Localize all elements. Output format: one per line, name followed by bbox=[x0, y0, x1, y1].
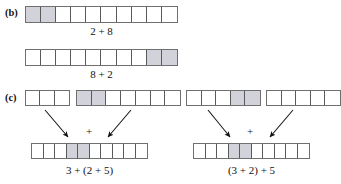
bar-cell bbox=[282, 91, 297, 105]
bar-cell bbox=[40, 91, 54, 105]
part-label-b: (b) bbox=[5, 8, 18, 19]
bar-two-plus-five bbox=[76, 90, 181, 106]
bar-cell bbox=[147, 7, 162, 22]
bar-result-right bbox=[193, 143, 310, 159]
bar-cell bbox=[325, 91, 340, 105]
bar-cell bbox=[56, 50, 71, 65]
arrow-two-plus-five-to-result bbox=[108, 110, 131, 137]
bar-cell bbox=[86, 7, 101, 22]
bar-cell bbox=[26, 7, 41, 22]
operator-plus-right: + bbox=[237, 126, 263, 137]
bar-cell bbox=[240, 144, 252, 158]
bar-cell bbox=[147, 50, 162, 65]
bar-cell bbox=[32, 144, 44, 158]
operator-plus-left: + bbox=[76, 126, 102, 137]
bar-cell bbox=[194, 144, 206, 158]
bar-cell bbox=[90, 144, 102, 158]
caption-eight-plus-two: 8 + 2 bbox=[25, 69, 178, 80]
caption-result-right: (3 + 2) + 5 bbox=[193, 165, 310, 176]
arrow-three-plus-two-to-result bbox=[208, 110, 230, 137]
bar-cell bbox=[77, 91, 92, 105]
bar-cell bbox=[132, 50, 147, 65]
bar-three bbox=[25, 90, 70, 106]
bar-cell bbox=[26, 91, 40, 105]
bar-cell bbox=[165, 91, 180, 105]
bar-cell bbox=[101, 7, 116, 22]
bar-cell bbox=[187, 91, 202, 105]
bar-cell bbox=[86, 50, 101, 65]
bar-result-left bbox=[31, 143, 148, 159]
bar-cell bbox=[151, 91, 166, 105]
bar-cell bbox=[162, 50, 177, 65]
bar-cell bbox=[245, 91, 260, 105]
bar-cell bbox=[216, 91, 231, 105]
bar-cell bbox=[44, 144, 56, 158]
bar-cell bbox=[71, 7, 86, 22]
bar-cell bbox=[202, 91, 217, 105]
bar-cell bbox=[121, 91, 136, 105]
bar-cell bbox=[263, 144, 275, 158]
bar-cell bbox=[252, 144, 264, 158]
arrow-three-to-result bbox=[45, 110, 68, 137]
bar-cell bbox=[92, 91, 107, 105]
bar-cell bbox=[206, 144, 218, 158]
bar-cell bbox=[286, 144, 298, 158]
bar-cell bbox=[113, 144, 125, 158]
bar-cell bbox=[229, 144, 241, 158]
bar-cell bbox=[78, 144, 90, 158]
bar-cell bbox=[106, 91, 121, 105]
bar-cell bbox=[275, 144, 287, 158]
bar-cell bbox=[117, 7, 132, 22]
bar-cell bbox=[136, 144, 148, 158]
bar-cell bbox=[296, 91, 311, 105]
bar-five bbox=[266, 90, 341, 106]
bar-cell bbox=[267, 91, 282, 105]
bar-cell bbox=[101, 50, 116, 65]
bar-cell bbox=[124, 144, 136, 158]
bar-cell bbox=[26, 50, 41, 65]
bar-cell bbox=[162, 7, 177, 22]
bar-cell bbox=[71, 50, 86, 65]
bar-cell bbox=[55, 91, 69, 105]
bar-cell bbox=[67, 144, 79, 158]
bar-cell bbox=[217, 144, 229, 158]
bar-two-plus-eight bbox=[25, 6, 178, 23]
bar-cell bbox=[55, 144, 67, 158]
bar-cell bbox=[56, 7, 71, 22]
bar-cell bbox=[41, 7, 56, 22]
bar-cell bbox=[101, 144, 113, 158]
bar-eight-plus-two bbox=[25, 49, 178, 66]
part-label-c: (c) bbox=[5, 93, 16, 104]
bar-cell bbox=[311, 91, 326, 105]
bar-cell bbox=[132, 7, 147, 22]
bar-cell bbox=[136, 91, 151, 105]
bar-cell bbox=[41, 50, 56, 65]
caption-result-left: 3 + (2 + 5) bbox=[31, 165, 148, 176]
caption-two-plus-eight: 2 + 8 bbox=[25, 26, 178, 37]
bar-cell bbox=[117, 50, 132, 65]
bar-three-plus-two bbox=[186, 90, 261, 106]
arrow-five-to-result bbox=[270, 110, 293, 137]
bar-cell bbox=[298, 144, 310, 158]
bar-cell bbox=[231, 91, 246, 105]
